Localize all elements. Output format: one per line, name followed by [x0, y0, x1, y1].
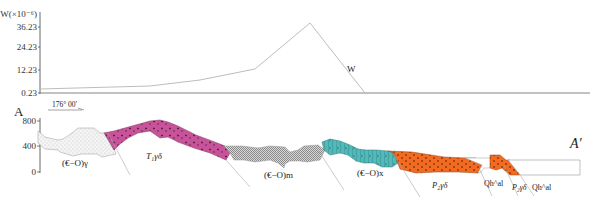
unit-cambrian-ordovician-gamma [38, 128, 116, 157]
tick-label: 12.23 [17, 65, 38, 75]
unit-label: (€−O)x [357, 168, 384, 178]
series-label-w: W [347, 64, 356, 74]
upper-line-chart: W(×10⁻⁶) 36.23 24.23 12.23 0.23 W [0, 9, 590, 98]
unit-label: (€−O)m [264, 170, 293, 180]
y-ticks: 36.23 24.23 12.23 0.23 [17, 22, 40, 98]
unit-label: T₁γδ [146, 151, 163, 161]
tick-label: 36.23 [17, 22, 38, 32]
unit-label: P₂γδ [511, 183, 527, 192]
y-axis-label: W(×10⁻⁶) [0, 9, 37, 19]
unit-p2-granodiorite [388, 151, 482, 173]
tick-label: 800 [23, 116, 37, 126]
tick-label: 24.23 [17, 42, 38, 52]
unit-cambrian-ordovician-x [322, 139, 398, 167]
geochemical-profile-figure: W(×10⁻⁶) 36.23 24.23 12.23 0.23 W A 176°… [0, 0, 596, 207]
tick-label: 400 [23, 141, 37, 151]
tick-label: 0.23 [21, 88, 37, 98]
tick-label: 0 [32, 167, 37, 177]
unit-label: Qh^al [532, 183, 552, 192]
unit-cambrian-ordovician-m [224, 145, 325, 168]
unit-label: (€−O)γ [62, 158, 88, 168]
unit-t1-granodiorite [104, 120, 230, 160]
w-series-line [40, 23, 365, 93]
section-end-label: A′ [569, 136, 583, 151]
unit-label: P₂γδ [431, 180, 448, 190]
unit-label: Qh^al [484, 179, 504, 188]
bearing-label: 176° 00′ [52, 100, 78, 109]
cross-section: A 176° 00′ 800 400 0 [14, 100, 583, 197]
